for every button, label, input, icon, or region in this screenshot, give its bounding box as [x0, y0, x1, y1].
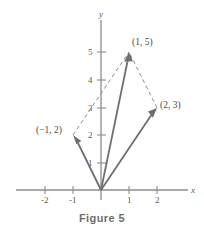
y-tick-label-5: 5	[88, 48, 93, 57]
y-tick-label-4: 4	[88, 76, 93, 85]
figure-caption: Figure 5	[0, 212, 204, 224]
point-label-1-5: (1, 5)	[132, 38, 153, 48]
x-axis-label: x	[191, 186, 195, 195]
point-label-neg1-2: (−1, 2)	[36, 126, 62, 136]
arrowhead-neg1-2	[73, 135, 81, 144]
figure-container: x y -2 -1 1 2 1 2 3 4 5 (−1, 2) (1, 5) (…	[0, 0, 204, 234]
y-axis-label: y	[99, 10, 103, 19]
x-tick-label-neg1: -1	[69, 196, 77, 205]
point-label-2-3: (2, 3)	[160, 101, 181, 111]
y-tick-label-2: 2	[88, 131, 93, 140]
y-tick-label-3: 3	[88, 104, 93, 113]
arrowhead-2-3	[148, 108, 157, 118]
dashed-segment-c-to-b	[129, 52, 157, 108]
vector-diagram	[0, 0, 204, 234]
x-tick-label-1: 1	[127, 196, 132, 205]
y-tick-label-1: 1	[88, 159, 93, 168]
x-tick-label-neg2: -2	[41, 196, 49, 205]
x-tick-label-2: 2	[155, 196, 160, 205]
